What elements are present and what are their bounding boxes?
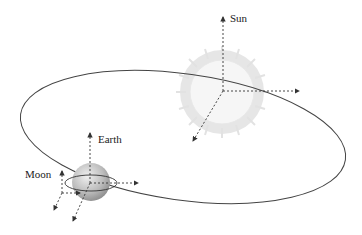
- moon-y-axis: [54, 193, 62, 210]
- earth-label: Earth: [98, 133, 122, 145]
- diagram-canvas: Sun Earth Moon: [0, 0, 362, 235]
- earth-globe-icon: [72, 163, 110, 201]
- orbit-diagram: [0, 0, 362, 235]
- sun-label: Sun: [230, 12, 247, 24]
- moon-label: Moon: [25, 168, 51, 180]
